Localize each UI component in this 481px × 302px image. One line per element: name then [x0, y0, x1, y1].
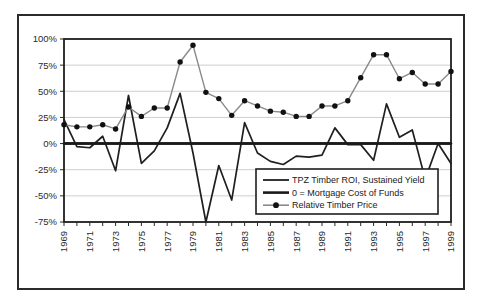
y-axis-tick-label: 100%: [33, 33, 58, 44]
data-point-marker: [371, 52, 376, 57]
y-axis-tick-label: -50%: [35, 190, 58, 201]
x-axis-tick-label: 1969: [58, 231, 69, 252]
series-line-2: [64, 45, 451, 129]
y-axis-tick-label: -75%: [35, 216, 58, 227]
data-point-marker: [165, 105, 170, 110]
data-point-marker: [294, 114, 299, 119]
x-axis-tick-label: 1973: [110, 231, 121, 252]
data-point-marker: [87, 124, 92, 129]
legend-label-1: 0 = Mortgage Cost of Funds: [292, 188, 404, 198]
x-axis-tick-label: 1997: [420, 231, 431, 252]
x-axis-tick-label: 1989: [316, 231, 327, 252]
y-axis-tick-label: 50%: [38, 86, 58, 97]
data-point-marker: [319, 103, 324, 108]
legend-label-2: Relative Timber Price: [292, 200, 378, 210]
y-axis-tick-label: 0%: [43, 138, 57, 149]
data-point-marker: [448, 69, 453, 74]
legend-label-0: TPZ Timber ROI, Sustained Yield: [292, 175, 425, 185]
y-axis-tick-label: -25%: [35, 164, 58, 175]
data-point-marker: [61, 122, 66, 127]
x-axis-tick-label: 1999: [445, 231, 456, 252]
data-point-marker: [100, 122, 105, 127]
x-axis-tick-label: 1983: [239, 231, 250, 252]
y-axis-tick-label: 25%: [38, 112, 58, 123]
data-point-marker: [242, 98, 247, 103]
x-axis-tick-label: 1975: [136, 231, 147, 252]
data-point-marker: [397, 76, 402, 81]
x-axis-tick-label: 1985: [265, 231, 276, 252]
x-axis-tick-label: 1987: [291, 231, 302, 252]
data-point-marker: [190, 43, 195, 48]
data-point-marker: [423, 81, 428, 86]
data-point-marker: [126, 104, 131, 109]
data-point-marker: [410, 70, 415, 75]
x-axis-tick-label: 1991: [342, 231, 353, 252]
data-point-marker: [177, 59, 182, 64]
data-point-marker: [139, 114, 144, 119]
data-point-marker: [281, 110, 286, 115]
data-point-marker: [384, 52, 389, 57]
data-point-marker: [268, 108, 273, 113]
data-point-marker: [113, 126, 118, 131]
data-point-marker: [203, 90, 208, 95]
data-point-marker: [332, 103, 337, 108]
x-axis-tick-label: 1971: [84, 231, 95, 252]
data-point-marker: [306, 114, 311, 119]
data-point-marker: [358, 75, 363, 80]
line-chart: 100%75%50%25%0%-25%-50%-75%1969197119731…: [19, 16, 463, 288]
x-axis-tick-label: 1981: [213, 231, 224, 252]
data-point-marker: [345, 98, 350, 103]
chart-legend: TPZ Timber ROI, Sustained Yield0 = Mortg…: [256, 169, 438, 214]
chart-outer-frame: 100%75%50%25%0%-25%-50%-75%1969197119731…: [17, 14, 465, 290]
x-axis-tick-label: 1995: [394, 231, 405, 252]
data-point-marker: [435, 81, 440, 86]
data-point-marker: [152, 105, 157, 110]
data-point-marker: [255, 103, 260, 108]
x-axis-tick-label: 1993: [368, 231, 379, 252]
x-axis-tick-label: 1977: [162, 231, 173, 252]
data-point-marker: [74, 124, 79, 129]
x-axis-tick-label: 1979: [187, 231, 198, 252]
chart-screenshot: 100%75%50%25%0%-25%-50%-75%1969197119731…: [0, 0, 481, 302]
legend-marker-icon: [273, 202, 279, 208]
data-point-marker: [229, 113, 234, 118]
y-axis-tick-label: 75%: [38, 60, 58, 71]
data-point-marker: [216, 96, 221, 101]
